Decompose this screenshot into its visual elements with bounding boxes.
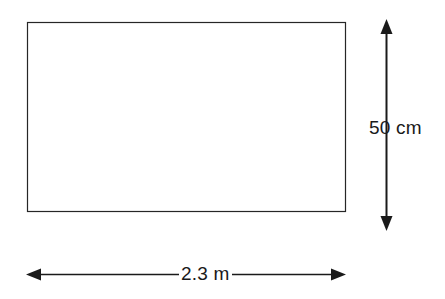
diagram-svg — [0, 0, 445, 299]
geometry-figure: 50 cm 2.3 m — [0, 0, 445, 299]
width-dimension-label: 2.3 m — [179, 264, 232, 283]
width-arrowhead-left — [26, 269, 41, 281]
rectangle-outline — [28, 23, 346, 212]
width-arrowhead-right — [331, 269, 346, 281]
height-dimension-label: 50 cm — [369, 118, 422, 137]
height-arrowhead-down — [381, 216, 393, 231]
height-arrowhead-up — [381, 19, 393, 34]
